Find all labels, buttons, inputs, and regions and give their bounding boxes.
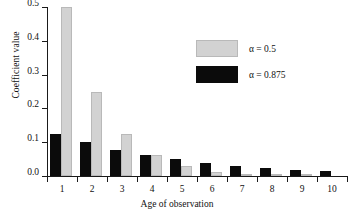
bar-light xyxy=(211,172,222,176)
x-axis-title: Age of observation xyxy=(0,199,354,209)
x-tick xyxy=(47,177,48,182)
bar-dark xyxy=(320,171,331,176)
legend-swatch-light xyxy=(196,40,238,57)
y-tick-label: 0.0 xyxy=(7,172,39,173)
bar-dark xyxy=(200,163,211,176)
bar-light xyxy=(151,155,162,176)
y-tick-label: 0.1 xyxy=(7,138,39,139)
bar-dark xyxy=(260,168,271,176)
y-axis-line xyxy=(47,7,48,177)
bar-dark xyxy=(110,150,121,176)
bar-light xyxy=(181,166,192,176)
y-tick xyxy=(42,108,47,109)
x-tick-label: 2 xyxy=(80,184,104,194)
x-tick-label: 5 xyxy=(170,184,194,194)
chart-legend: α = 0.5 α = 0.875 xyxy=(196,40,346,92)
x-tick-label: 4 xyxy=(140,184,164,194)
bar-light xyxy=(301,174,312,176)
x-tick-label: 7 xyxy=(230,184,254,194)
x-tick xyxy=(347,177,348,182)
x-tick xyxy=(287,177,288,182)
legend-label-light: α = 0.5 xyxy=(249,44,276,54)
y-tick-label: 0.5 xyxy=(7,3,39,4)
x-tick-label: 8 xyxy=(260,184,284,194)
x-tick-label: 1 xyxy=(50,184,74,194)
bar-dark xyxy=(230,166,241,176)
x-tick xyxy=(227,177,228,182)
bar-dark xyxy=(140,155,151,176)
x-tick xyxy=(257,177,258,182)
x-tick-label: 9 xyxy=(290,184,314,194)
bar-light xyxy=(61,7,72,176)
legend-item-alpha-half: α = 0.5 xyxy=(196,40,346,57)
x-tick xyxy=(197,177,198,182)
bar-dark xyxy=(170,159,181,176)
legend-label-dark: α = 0.875 xyxy=(249,70,285,80)
bar-dark xyxy=(290,170,301,176)
y-tick-label: 0.2 xyxy=(7,104,39,105)
y-tick xyxy=(42,75,47,76)
x-tick xyxy=(317,177,318,182)
x-tick-label: 6 xyxy=(200,184,224,194)
y-tick-label: 0.3 xyxy=(7,71,39,72)
bar-light xyxy=(241,174,252,176)
bar-dark xyxy=(50,134,61,176)
bar-dark xyxy=(80,142,91,176)
y-tick xyxy=(42,41,47,42)
legend-item-alpha-875: α = 0.875 xyxy=(196,66,346,83)
x-tick xyxy=(77,177,78,182)
x-tick xyxy=(107,177,108,182)
legend-swatch-dark xyxy=(196,66,238,83)
y-tick xyxy=(42,7,47,8)
y-axis-title: Coefficient value xyxy=(11,5,21,125)
y-tick xyxy=(42,142,47,143)
y-tick-label: 0.4 xyxy=(7,37,39,38)
bar-chart-figure: Coefficient value 0.00.10.20.30.40.5 123… xyxy=(0,0,354,224)
bar-light xyxy=(91,92,102,177)
bar-light xyxy=(271,174,282,176)
x-tick-label: 3 xyxy=(110,184,134,194)
x-tick-label: 10 xyxy=(320,184,344,194)
bar-light xyxy=(121,134,132,176)
x-tick xyxy=(137,177,138,182)
x-tick xyxy=(167,177,168,182)
